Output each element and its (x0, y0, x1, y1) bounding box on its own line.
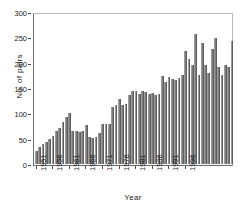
x-tick-label: 1951 (39, 154, 48, 171)
y-tick-mark (28, 64, 31, 65)
y-tick-mark (28, 38, 31, 39)
y-tick-label: 0 (23, 161, 27, 170)
y-tick-label: 150 (14, 85, 27, 94)
y-tick-mark (28, 89, 31, 90)
x-tick-mark (168, 166, 169, 169)
x-tick-label: 1956 (55, 154, 64, 171)
x-tick-mark (69, 166, 70, 169)
bar (231, 41, 234, 164)
plot-area (33, 13, 233, 166)
x-tick-mark (152, 166, 153, 169)
bar-series (35, 15, 232, 164)
x-tick-label: 1976 (122, 154, 131, 171)
x-tick-label: 1991 (171, 154, 180, 171)
y-tick-mark (28, 114, 31, 115)
y-tick-label: 300 (14, 9, 27, 18)
x-tick-mark (85, 166, 86, 169)
x-axis-label: Year (33, 193, 233, 202)
y-tick-label: 250 (14, 34, 27, 43)
y-tick-mark (28, 140, 31, 141)
x-tick-mark (36, 166, 37, 169)
x-tick-label: 1966 (88, 154, 97, 171)
y-tick-label: 100 (14, 110, 27, 119)
y-axis-tick-labels: 050100150200250300 (0, 0, 31, 207)
x-tick-mark (135, 166, 136, 169)
x-tick-mark (52, 166, 53, 169)
x-tick-mark (102, 166, 103, 169)
y-tick-label: 50 (19, 135, 27, 144)
x-tick-mark (119, 166, 120, 169)
x-tick-label: 1971 (105, 154, 114, 171)
y-tick-label: 200 (14, 59, 27, 68)
x-tick-label: 1986 (155, 154, 164, 171)
x-tick-label: 1996 (188, 154, 197, 171)
y-tick-mark (28, 165, 31, 166)
x-tick-label: 1981 (138, 154, 147, 171)
x-tick-label: 1961 (72, 154, 81, 171)
y-tick-mark (28, 13, 31, 14)
x-tick-mark (185, 166, 186, 169)
bar-chart-figure: No. of pairs 050100150200250300 19511956… (0, 0, 241, 207)
